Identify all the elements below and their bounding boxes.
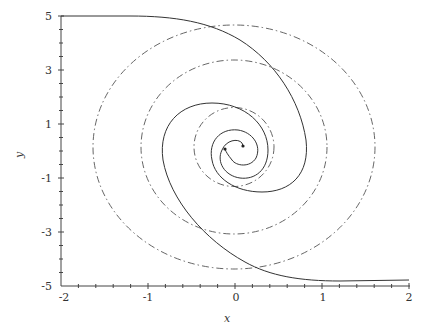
outer-orbit <box>93 25 375 269</box>
x-tick-label: 2 <box>406 291 413 304</box>
y-tick-label: 3 <box>45 64 52 77</box>
y-axis-label: y <box>13 151 26 159</box>
y-tick-label: 1 <box>45 118 52 131</box>
equilibrium-point <box>223 147 226 150</box>
y-tick-label: -3 <box>41 226 52 239</box>
y-tick-label: 5 <box>45 10 52 23</box>
x-axis-label: x <box>224 312 231 325</box>
x-tick-label: 0 <box>233 291 240 304</box>
inner-orbit <box>194 108 274 187</box>
x-tick-label: -1 <box>143 291 154 304</box>
x-tick-label: 1 <box>320 291 327 304</box>
trajectory-arm-bottom <box>162 103 409 281</box>
phase-portrait-chart: 5 3 1 -1 -3 -5 -2 -1 0 1 2 x y <box>0 0 429 335</box>
y-tick-label: -1 <box>41 172 52 185</box>
x-tick-label: -2 <box>59 291 70 304</box>
y-tick-label: -5 <box>41 280 52 293</box>
equilibrium-point <box>241 144 244 147</box>
middle-orbit <box>141 60 327 234</box>
